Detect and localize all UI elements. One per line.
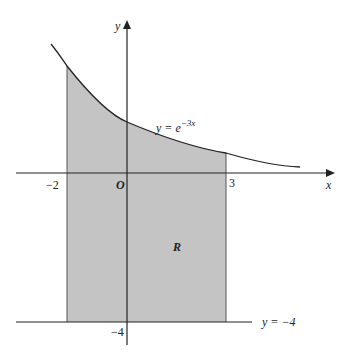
tick-x-neg2: −2 [46, 178, 59, 192]
y-axis-label: y [114, 19, 121, 33]
y-axis-arrow-icon [123, 20, 131, 29]
diagram-canvas: y x O −2 3 −4 R y = e−3x y = −4 [0, 0, 351, 359]
curve-label-base: y = e [155, 121, 181, 135]
region-r-shading [67, 66, 226, 322]
line-y-neg4-label: y = −4 [261, 315, 296, 329]
region-label: R [172, 240, 181, 254]
origin-label: O [116, 178, 125, 192]
x-axis-arrow-icon [326, 169, 335, 177]
x-axis-label: x [325, 178, 332, 192]
tick-x-3: 3 [229, 176, 235, 190]
curve-label-exponent: −3x [181, 118, 196, 128]
curve-label: y = e−3x [155, 118, 195, 135]
tick-y-neg4: −4 [111, 325, 124, 339]
